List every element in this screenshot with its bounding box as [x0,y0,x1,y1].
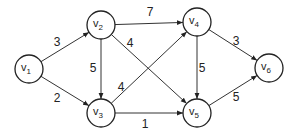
edge-v1-v2 [41,32,89,61]
edge-weight-label: 2 [54,91,61,105]
arrow-icon [41,76,89,105]
graph-diagram: 3257441535 v1v2v3v4v5v6 [0,0,296,136]
edge-weight-label: 5 [233,90,240,104]
node-v1: v1 [15,55,43,83]
node-v2: v2 [87,11,115,39]
edge-v2-v4 [115,22,183,24]
edge-weight-label: 7 [147,5,154,19]
node-v3: v3 [87,99,115,127]
edge-weight-label: 4 [118,80,125,94]
edge-weight-label: 5 [199,61,206,75]
edge-weight-label: 5 [90,61,97,75]
edges-layer [41,22,257,113]
edge-v1-v3 [41,76,89,105]
edge-weight-label: 1 [142,117,149,131]
node-v4: v4 [183,8,211,36]
edge-weight-label: 3 [54,35,61,49]
edge-weight-label: 3 [233,34,240,48]
node-v5: v5 [183,99,211,127]
arrow-icon [41,32,89,61]
arrow-icon [115,22,183,24]
edge-weight-label: 4 [127,36,134,50]
node-v6: v6 [255,54,283,82]
